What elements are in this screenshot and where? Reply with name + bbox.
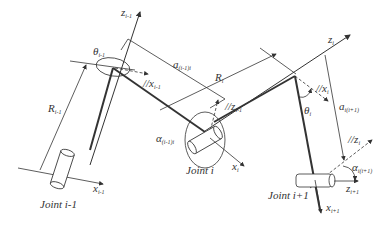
z-im1-axis [90, 12, 140, 165]
label-z-i: zi [327, 33, 334, 46]
link-i-ip1 [214, 76, 295, 122]
label-z-im1: zi-1 [120, 6, 132, 19]
label-r-im1: Ri-1 [47, 102, 61, 115]
label-r-i: Ri [214, 71, 224, 84]
label-theta-im1: θi-1 [93, 45, 105, 58]
label-alpha-i-ip1: αi(i+1) [352, 161, 372, 175]
label-z-i-parallel: //zi [347, 133, 360, 146]
label-joint-ip1: Joint i+1 [268, 189, 309, 201]
label-z-ip1: zi+1 [345, 182, 359, 195]
label-x-im1-parallel: //xi-1 [142, 77, 161, 90]
label-joint-i: Joint i [186, 164, 214, 176]
dh-diagram: zi-1 θi-1 //xi-1 a(i-1)i Ri-1 xi-1 Joint… [0, 0, 391, 227]
joint-i-cylinder [186, 125, 224, 155]
theta-i-arc [299, 89, 311, 97]
x-i-axis [210, 138, 244, 166]
link-im1-i [113, 68, 205, 132]
label-theta-i: θi [304, 104, 311, 117]
z-i-axis [205, 35, 350, 131]
label-z-im1-parallel: //zi-1 [224, 100, 242, 113]
label-x-i: xi [231, 160, 239, 173]
label-x-i-parallel: //xi [315, 82, 329, 95]
label-x-ip1: xi+1 [325, 201, 340, 214]
label-a-i-ip1: ai(i+1) [339, 100, 359, 114]
link-im1-vertical [90, 68, 113, 150]
label-a-im1-i: a(i-1)i [173, 58, 191, 72]
label-alpha-im1-i: α(i-1)i [156, 132, 174, 146]
joint-im1-cylinder [49, 148, 75, 190]
label-joint-im1: Joint i-1 [40, 198, 77, 210]
joint-ip1-cylinder [296, 174, 335, 187]
